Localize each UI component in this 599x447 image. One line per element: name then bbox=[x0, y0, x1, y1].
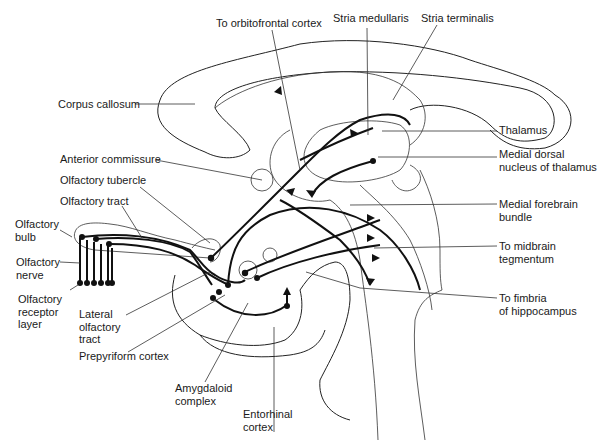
label-fimbria-line1: To fimbria bbox=[499, 292, 577, 305]
neuron-dots bbox=[208, 158, 376, 309]
label-medial-dorsal-line1: Medial dorsal bbox=[499, 148, 597, 161]
label-corpus-callosum: Corpus callosum bbox=[58, 98, 140, 111]
label-medial-forebrain-bundle: Medial forebrain bundle bbox=[499, 198, 578, 223]
label-to-midbrain-tegmentum: To midbrain tegmentum bbox=[499, 240, 556, 265]
label-olfactory-nerve-line1: Olfactory bbox=[16, 256, 60, 269]
label-receptor-line3: layer bbox=[18, 318, 62, 331]
label-olfactory-tract: Olfactory tract bbox=[60, 195, 128, 208]
label-olfactory-tubercle: Olfactory tubercle bbox=[60, 174, 146, 187]
label-mfb-line2: bundle bbox=[499, 211, 578, 224]
label-lot-line3: tract bbox=[79, 333, 121, 346]
label-amygdaloid-line2: complex bbox=[175, 395, 232, 408]
label-medial-dorsal-line2: nucleus of thalamus bbox=[499, 161, 597, 174]
label-amygdaloid-complex: Amygdaloid complex bbox=[175, 382, 232, 407]
label-stria-medullaris: Stria medullaris bbox=[333, 12, 409, 25]
leader-lines bbox=[60, 25, 497, 432]
label-lateral-olfactory-tract: Lateral olfactory tract bbox=[79, 308, 121, 346]
label-prepyriform-cortex: Prepyriform cortex bbox=[79, 350, 169, 363]
label-to-fimbria: To fimbria of hippocampus bbox=[499, 292, 577, 317]
label-olfactory-bulb: Olfactory bulb bbox=[15, 218, 59, 243]
olfactory-tract-shape bbox=[74, 223, 220, 262]
label-lot-line1: Lateral bbox=[79, 308, 121, 321]
label-olfactory-bulb-line1: Olfactory bbox=[15, 218, 59, 231]
olfactory-receptors bbox=[77, 234, 115, 286]
label-entorhinal-line1: Entorhinal bbox=[243, 408, 293, 421]
label-fimbria-line2: of hippocampus bbox=[499, 305, 577, 318]
label-thalamus: Thalamus bbox=[499, 124, 547, 137]
label-olfactory-nerve-line2: nerve bbox=[16, 269, 60, 282]
label-receptor-line1: Olfactory bbox=[18, 293, 62, 306]
label-lot-line2: olfactory bbox=[79, 321, 121, 334]
olfactory-pathways bbox=[82, 115, 420, 315]
label-olfactory-bulb-line2: bulb bbox=[15, 231, 59, 244]
label-to-orbitofrontal-cortex: To orbitofrontal cortex bbox=[216, 17, 322, 30]
label-midbrain-line2: tegmentum bbox=[499, 253, 556, 266]
label-olfactory-nerve: Olfactory nerve bbox=[16, 256, 60, 281]
label-entorhinal-line2: cortex bbox=[243, 421, 293, 434]
label-entorhinal-cortex: Entorhinal cortex bbox=[243, 408, 293, 433]
label-amygdaloid-line1: Amygdaloid bbox=[175, 382, 232, 395]
label-olfactory-receptor-layer: Olfactory receptor layer bbox=[18, 293, 62, 331]
arrowheads bbox=[274, 86, 380, 295]
label-stria-terminalis: Stria terminalis bbox=[421, 12, 494, 25]
label-mfb-line1: Medial forebrain bbox=[499, 198, 578, 211]
corpus-callosum-shape bbox=[158, 41, 571, 158]
brain-diagram bbox=[0, 0, 599, 447]
label-anterior-commissure: Anterior commissure bbox=[60, 153, 161, 166]
label-medial-dorsal-nucleus: Medial dorsal nucleus of thalamus bbox=[499, 148, 597, 173]
label-receptor-line2: receptor bbox=[18, 306, 62, 319]
label-midbrain-line1: To midbrain bbox=[499, 240, 556, 253]
